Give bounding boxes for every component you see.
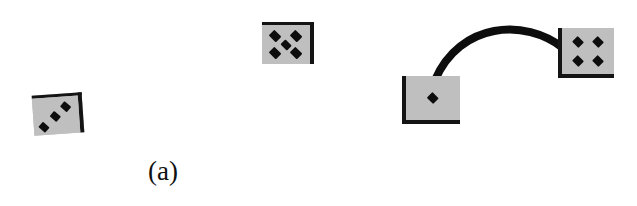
die-face [562,28,614,74]
die-pip [572,55,584,67]
die-face [406,76,460,120]
die-pip [39,122,50,133]
die-four-pips [558,28,614,78]
panel-label-a: (a) [148,158,178,185]
die-face [262,25,310,64]
die-pip [592,36,604,48]
die-pip [269,47,282,60]
die-three-pips [32,92,85,135]
die-pip [269,29,282,42]
panel-a: (a) [0,0,320,206]
die-pip [592,55,604,67]
die-pip [280,39,291,50]
figure-root: (a) (b) [0,0,637,206]
die-one-pip [402,76,460,124]
die-pip [572,36,584,48]
die-pip [50,111,61,122]
die-pip [289,29,302,42]
panel-b: (b) [320,0,637,206]
die-five-pips [262,22,314,64]
die-face [32,96,80,136]
die-pip [289,47,302,60]
die-pip [427,92,439,104]
die-pip [60,101,71,112]
